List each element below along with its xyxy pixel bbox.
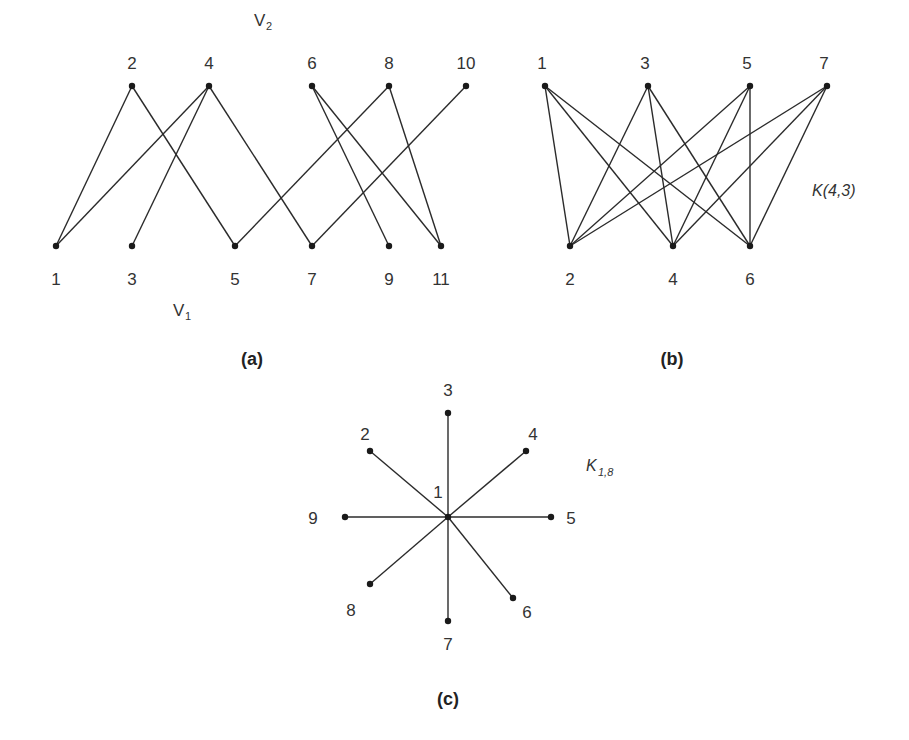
graph-c-vertex-4 <box>523 448 529 454</box>
graph-c-vertex-5 <box>548 514 554 520</box>
graph-b-vertex-label-1: 1 <box>537 54 546 73</box>
caption-c: (c) <box>437 689 459 709</box>
caption-b: (b) <box>661 349 684 369</box>
graph-a-vertex-label-2: 2 <box>127 54 136 73</box>
graph-c-star: 123456789 <box>308 381 575 654</box>
graph-diagrams: 1234567891011 1234567 123456789 (a) (b) … <box>0 0 909 740</box>
graph-c-edge-1-4 <box>448 451 526 517</box>
graph-b-vertex-3 <box>645 83 651 89</box>
graph-a-vertex-label-8: 8 <box>384 54 393 73</box>
graph-a-vertex-label-5: 5 <box>230 270 239 289</box>
graph-b-vertex-label-4: 4 <box>668 270 677 289</box>
graph-c-vertex-label-9: 9 <box>308 509 317 528</box>
graph-c-vertex-label-7: 7 <box>443 635 452 654</box>
graph-b-name: K(4,3) <box>812 182 856 199</box>
graph-c-name-main: K <box>586 457 598 474</box>
figure-canvas: 1234567891011 1234567 123456789 (a) (b) … <box>0 0 909 740</box>
graph-c-vertex-label-4: 4 <box>528 425 537 444</box>
graph-a-vertex-label-7: 7 <box>307 270 316 289</box>
graph-c-vertex-7 <box>445 618 451 624</box>
graph-c-vertex-label-5: 5 <box>566 509 575 528</box>
graph-a-vertex-6 <box>309 83 315 89</box>
graph-b-edge-5-4 <box>673 86 750 246</box>
graph-a-vertex-label-1: 1 <box>51 270 60 289</box>
graph-b-k43: 1234567 <box>537 54 830 289</box>
graph-a-edge-3-4 <box>132 86 209 246</box>
graph-b-edge-1-2 <box>545 86 570 246</box>
graph-a-vertex-11 <box>438 243 444 249</box>
set-label-v1-sub: 1 <box>185 310 191 322</box>
graph-a-vertex-8 <box>386 83 392 89</box>
graph-a-edge-5-2 <box>132 86 235 246</box>
caption-a: (a) <box>241 349 263 369</box>
graph-c-vertex-label-3: 3 <box>443 381 452 400</box>
graph-a-edge-11-6 <box>312 86 441 246</box>
graph-b-vertex-7 <box>824 83 830 89</box>
graph-a-vertex-label-10: 10 <box>457 54 476 73</box>
set-label-v1-main: V <box>173 301 185 320</box>
graph-c-vertex-8 <box>367 581 373 587</box>
graph-a-edge-7-10 <box>312 86 466 246</box>
graph-b-edge-1-6 <box>545 86 750 246</box>
graph-a-vertex-5 <box>232 243 238 249</box>
graph-a-vertex-label-11: 11 <box>432 270 450 289</box>
graph-b-vertex-label-6: 6 <box>745 270 754 289</box>
graph-a-vertex-4 <box>206 83 212 89</box>
graph-c-edge-1-8 <box>370 517 448 584</box>
graph-a-vertex-2 <box>129 83 135 89</box>
graph-b-vertex-6 <box>747 243 753 249</box>
graph-b-vertex-5 <box>747 83 753 89</box>
graph-b-vertex-2 <box>567 243 573 249</box>
graph-c-vertex-label-2: 2 <box>360 425 369 444</box>
graph-a-vertex-label-6: 6 <box>307 54 316 73</box>
graph-a-vertex-1 <box>53 243 59 249</box>
set-label-v2-main: V <box>254 11 266 30</box>
graph-b-vertex-label-3: 3 <box>640 54 649 73</box>
graph-c-vertex-label-1: 1 <box>433 483 442 502</box>
graph-a-edge-5-8 <box>235 86 389 246</box>
graph-c-vertex-1 <box>445 514 451 520</box>
graph-a-vertex-10 <box>463 83 469 89</box>
graph-c-vertex-9 <box>342 514 348 520</box>
graph-c-vertex-label-8: 8 <box>346 601 355 620</box>
graph-a-vertex-label-4: 4 <box>204 54 213 73</box>
graph-a-vertex-label-9: 9 <box>384 270 393 289</box>
graph-c-vertex-3 <box>445 410 451 416</box>
graph-a-edge-1-4 <box>56 86 209 246</box>
graph-b-vertex-label-5: 5 <box>742 54 751 73</box>
graph-a-edge-7-4 <box>209 86 312 246</box>
graph-a-edge-11-8 <box>389 86 441 246</box>
graph-a-vertex-label-3: 3 <box>127 270 136 289</box>
graph-a-vertex-7 <box>309 243 315 249</box>
set-label-v1: V 1 <box>173 301 191 322</box>
graph-b-edge-5-2 <box>570 86 750 246</box>
graph-b-vertex-label-2: 2 <box>565 270 574 289</box>
graph-b-vertex-4 <box>670 243 676 249</box>
graph-a-vertex-9 <box>386 243 392 249</box>
set-label-v2: V 2 <box>254 11 272 32</box>
graph-b-vertex-1 <box>542 83 548 89</box>
graph-a-edge-9-6 <box>312 86 389 246</box>
graph-c-edge-1-6 <box>448 517 513 598</box>
graph-a-vertex-3 <box>129 243 135 249</box>
set-label-v2-sub: 2 <box>266 20 272 32</box>
graph-c-name-sub: 1,8 <box>598 466 614 478</box>
graph-c-vertex-6 <box>510 595 516 601</box>
graph-c-vertex-label-6: 6 <box>522 603 531 622</box>
graph-a: 1234567891011 <box>51 54 475 289</box>
graph-c-vertex-2 <box>367 448 373 454</box>
graph-a-edge-1-2 <box>56 86 132 246</box>
graph-c-name: K 1,8 <box>586 457 614 478</box>
graph-b-vertex-label-7: 7 <box>819 54 828 73</box>
